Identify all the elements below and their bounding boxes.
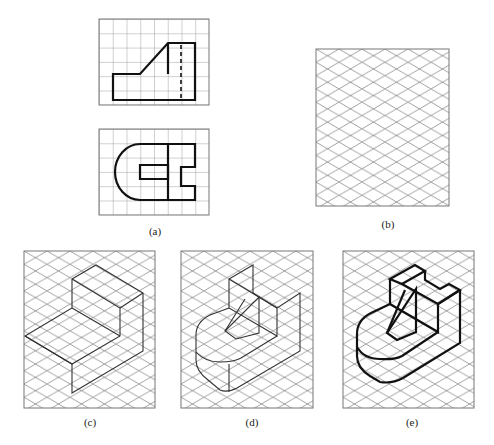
figure-canvas xyxy=(0,0,494,445)
panel-label-d: (d) xyxy=(246,416,259,428)
panel-label-c: (c) xyxy=(84,416,96,428)
panel-e-final xyxy=(343,251,474,408)
panel-c-blocking xyxy=(24,251,155,408)
panel-label-a: (a) xyxy=(149,225,161,237)
square-grid xyxy=(99,19,209,105)
panel-label-e: (e) xyxy=(406,416,418,428)
panel-a-front-view xyxy=(99,19,209,105)
panel-d-details xyxy=(181,251,313,408)
panel-a-top-view xyxy=(99,129,209,215)
panel-label-b: (b) xyxy=(382,218,395,230)
panel-b-isometric-grid xyxy=(316,49,449,206)
